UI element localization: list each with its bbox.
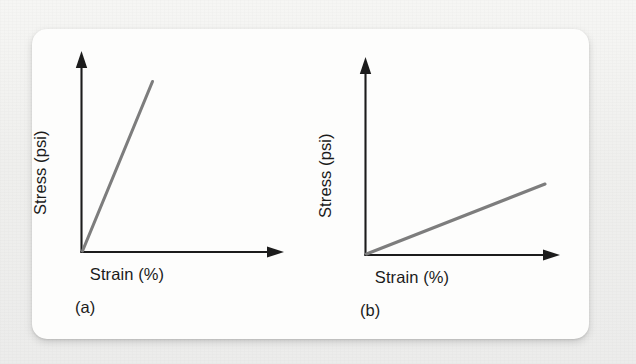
panel-a-x-axis-label: Strain (%)	[90, 265, 164, 283]
panel-b-x-axis	[365, 249, 561, 260]
x-axis-arrowhead-icon	[267, 246, 284, 257]
panel-b: Stress (psi) Strain (%) (b)	[316, 57, 560, 319]
panel-b-label: (b)	[360, 301, 380, 319]
y-axis-arrowhead-icon	[360, 57, 371, 74]
y-axis-arrowhead-icon	[76, 51, 87, 68]
panel-a-x-axis	[81, 246, 285, 257]
panel-a: Stress (psi) Strain (%) (a)	[31, 51, 284, 316]
copyright-credit: © CENGAGE LEARNING 2013	[622, 354, 634, 364]
panel-a-label: (a)	[75, 298, 95, 316]
panel-a-y-axis	[76, 51, 87, 253]
x-axis-arrowhead-icon	[543, 249, 560, 260]
copyright-credit-text: © CENGAGE LEARNING 2013	[622, 354, 634, 364]
panel-b-x-axis-label: Strain (%)	[375, 268, 449, 286]
panel-b-y-axis	[360, 57, 371, 256]
panel-a-y-axis-label: Stress (psi)	[31, 130, 49, 215]
panel-b-y-axis-label: Stress (psi)	[316, 133, 334, 218]
panel-a-stress-strain-line	[83, 82, 153, 252]
figure-root: Stress (psi) Strain (%) (a) Stress (psi)	[0, 0, 636, 364]
figure-plots: Stress (psi) Strain (%) (a) Stress (psi)	[0, 0, 636, 364]
panel-b-stress-strain-line	[367, 184, 546, 254]
